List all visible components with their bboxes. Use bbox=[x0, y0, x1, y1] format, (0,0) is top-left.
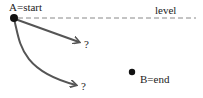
curved-target-question-mark: ? bbox=[81, 81, 86, 92]
straight-target-question-mark: ? bbox=[84, 39, 89, 50]
start-label: A=start bbox=[9, 2, 42, 13]
level-label: level bbox=[155, 5, 176, 16]
straight-arrow bbox=[15, 19, 79, 42]
end-point-dot bbox=[129, 69, 135, 75]
end-label: B=end bbox=[140, 74, 169, 85]
start-point-dot bbox=[10, 14, 18, 22]
